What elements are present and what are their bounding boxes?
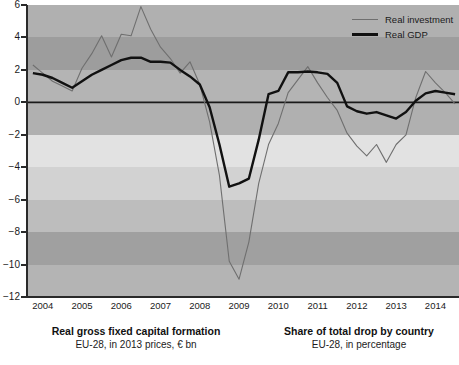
caption-right-title: Share of total drop by country bbox=[262, 325, 456, 338]
caption-left-subtitle: EU-28, in 2013 prices, € bn bbox=[16, 338, 256, 351]
x-axis-tick-label: 2011 bbox=[298, 300, 338, 311]
y-axis-tick-label: −10 bbox=[0, 260, 20, 270]
x-axis-tick-label: 2013 bbox=[376, 300, 416, 311]
y-axis-tick-label: −12 bbox=[0, 292, 20, 302]
y-axis-tick bbox=[21, 199, 27, 201]
x-axis-tick-label: 2006 bbox=[101, 300, 141, 311]
chart-figure: 6420−2−4−6−8−10−12 200420052006200720082… bbox=[0, 0, 459, 365]
legend-line-icon bbox=[352, 30, 378, 40]
legend-item-label: Real GDP bbox=[378, 29, 428, 40]
y-axis-tick-label: 4 bbox=[0, 32, 20, 42]
y-axis-tick-label: −6 bbox=[0, 195, 20, 205]
legend-item[interactable]: Real investment bbox=[352, 12, 458, 27]
y-axis-tick bbox=[21, 231, 27, 233]
series-line-real-gdp bbox=[33, 58, 455, 187]
caption-left-title: Real gross fixed capital formation bbox=[16, 325, 256, 338]
y-axis-tick-label: −2 bbox=[0, 130, 20, 140]
legend-item-label: Real investment bbox=[378, 14, 453, 25]
y-axis-tick-label: 0 bbox=[0, 97, 20, 107]
plot-area bbox=[27, 5, 459, 297]
legend-line-icon bbox=[352, 15, 378, 25]
x-axis-tick-label: 2009 bbox=[219, 300, 259, 311]
caption-right: Share of total drop by country EU-28, in… bbox=[262, 325, 456, 351]
y-axis-tick bbox=[21, 134, 27, 136]
y-axis-tick bbox=[21, 264, 27, 266]
caption-left: Real gross fixed capital formation EU-28… bbox=[16, 325, 256, 351]
y-axis-tick-label: 6 bbox=[0, 0, 20, 10]
x-axis bbox=[26, 296, 459, 298]
y-axis-tick bbox=[21, 4, 27, 6]
y-axis-tick-label: 2 bbox=[0, 65, 20, 75]
x-axis-tick-label: 2008 bbox=[180, 300, 220, 311]
x-axis-tick-label: 2004 bbox=[23, 300, 63, 311]
y-axis bbox=[26, 5, 28, 298]
legend-item[interactable]: Real GDP bbox=[352, 27, 458, 42]
y-axis-tick-label: −8 bbox=[0, 227, 20, 237]
y-axis-tick bbox=[21, 101, 27, 103]
x-axis-tick-label: 2005 bbox=[62, 300, 102, 311]
x-axis-tick-label: 2007 bbox=[141, 300, 181, 311]
x-axis-tick-label: 2012 bbox=[337, 300, 377, 311]
caption-right-subtitle: EU-28, in percentage bbox=[262, 338, 456, 351]
y-axis-tick bbox=[21, 36, 27, 38]
series-layer bbox=[27, 5, 459, 297]
x-axis-tick-label: 2014 bbox=[415, 300, 455, 311]
x-axis-tick-label: 2010 bbox=[258, 300, 298, 311]
series-line-real-investment bbox=[33, 7, 455, 280]
y-axis-tick bbox=[21, 166, 27, 168]
y-axis-tick bbox=[21, 69, 27, 71]
y-axis-tick bbox=[21, 296, 27, 298]
y-axis-tick-label: −4 bbox=[0, 162, 20, 172]
chart-legend: Real investmentReal GDP bbox=[352, 12, 458, 42]
